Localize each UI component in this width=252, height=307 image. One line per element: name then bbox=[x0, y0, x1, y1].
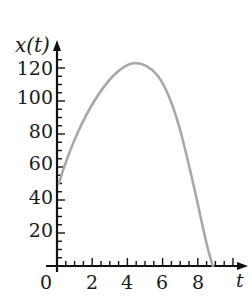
y-tick-label-40: 40 bbox=[29, 188, 53, 207]
x-tick-label-6: 6 bbox=[156, 273, 168, 292]
x-tick-label-8: 8 bbox=[192, 273, 204, 292]
y-axis-arrow-icon bbox=[53, 40, 61, 51]
x-tick-label-4: 4 bbox=[121, 273, 133, 292]
x-tick-label-2: 2 bbox=[86, 273, 98, 292]
y-tick-label-80: 80 bbox=[29, 122, 53, 141]
y-axis-label: x(t) bbox=[15, 35, 50, 55]
y-tick-label-120: 120 bbox=[17, 59, 53, 78]
x-ticks bbox=[66, 258, 233, 266]
y-tick-label-60: 60 bbox=[29, 154, 53, 173]
origin-label: 0 bbox=[40, 273, 52, 292]
y-tick-label-100: 100 bbox=[17, 88, 53, 107]
curve-x-of-t bbox=[59, 63, 213, 266]
x-axis-label: t bbox=[236, 271, 244, 290]
y-tick-label-20: 20 bbox=[29, 221, 53, 240]
y-ticks bbox=[57, 60, 65, 258]
